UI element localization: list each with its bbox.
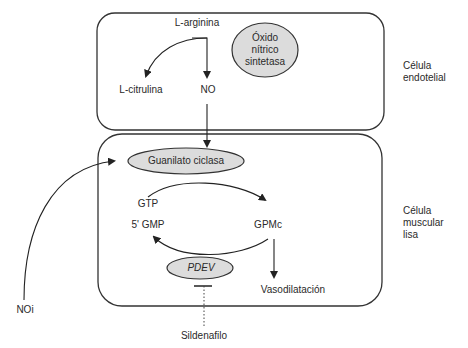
- label-no: NO: [201, 84, 216, 96]
- nos-line3: sintetasa: [232, 56, 298, 68]
- label-celula-endotelial: Célula endotelial: [403, 60, 446, 84]
- label-gpmc: GPMc: [254, 219, 282, 231]
- label-l-citrulina: L-citrulina: [119, 84, 162, 96]
- muscle-line1: Célula: [403, 205, 444, 217]
- label-vasodilatacion: Vasodilatación: [261, 284, 325, 296]
- label-noi: NOi: [16, 304, 33, 316]
- nos-line1: Óxido: [232, 32, 298, 44]
- arrow-gtp-gpmc: [148, 183, 265, 200]
- label-gtp: GTP: [138, 198, 159, 210]
- label-l-arginina: L-arginina: [175, 17, 219, 29]
- endothelial-line1: Célula: [403, 60, 446, 72]
- label-sildenafilo: Sildenafilo: [181, 330, 227, 342]
- arrow-arginina-citrulina: [146, 38, 207, 76]
- arrow-arginina-no: [192, 38, 207, 77]
- label-pdev: PDEV: [187, 262, 214, 274]
- endothelial-line2: endotelial: [403, 72, 446, 84]
- label-5gmp: 5' GMP: [131, 219, 164, 231]
- arrow-noi-guanilato: [24, 161, 114, 300]
- label-celula-muscular-lisa: Célula muscular lisa: [403, 205, 444, 241]
- label-guanilato-ciclasa: Guanilato ciclasa: [148, 155, 224, 167]
- endothelial-cell-box: [97, 13, 384, 130]
- muscle-line2: muscular: [403, 217, 444, 229]
- arrow-gpmc-gmp: [154, 237, 268, 255]
- nos-line2: nítrico: [232, 44, 298, 56]
- muscle-line3: lisa: [403, 229, 444, 241]
- label-nos: Óxido nítrico sintetasa: [232, 32, 298, 68]
